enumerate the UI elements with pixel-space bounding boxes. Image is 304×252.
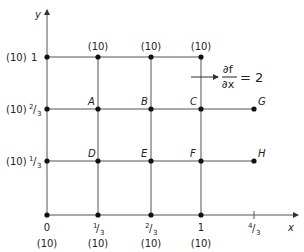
point-label-C: C bbox=[190, 96, 197, 107]
point-label-G: G bbox=[258, 96, 266, 107]
point-label-A: A bbox=[87, 96, 95, 107]
point-label-E: E bbox=[141, 148, 148, 159]
x-tick-13-den: 3 bbox=[100, 229, 104, 237]
bottom-boundary-label: (10) bbox=[191, 238, 212, 249]
y-tick-23-boundary: (10) bbox=[6, 104, 27, 115]
x-tick-1: 1 bbox=[198, 222, 204, 233]
x-axis-label: x bbox=[287, 222, 294, 233]
y-tick-23-den: 3 bbox=[37, 110, 41, 118]
point-label-F: F bbox=[190, 148, 196, 159]
derivative-numerator: ∂f bbox=[223, 63, 234, 76]
derivative-denominator: ∂x bbox=[222, 78, 235, 91]
bottom-boundary-label: (10) bbox=[37, 238, 58, 249]
y-tick-13-boundary: (10) bbox=[6, 156, 27, 167]
bottom-boundary-label: (10) bbox=[88, 238, 109, 249]
point-label-D: D bbox=[88, 148, 96, 159]
top-boundary-label: (10) bbox=[191, 41, 212, 52]
finite-difference-grid: y x (10) (10) (10) (10) 1 (10) 2 / 3 (10… bbox=[0, 0, 304, 252]
top-boundary-label: (10) bbox=[88, 41, 109, 52]
top-boundary-label: (10) bbox=[141, 41, 162, 52]
bottom-boundary-label: (10) bbox=[141, 238, 162, 249]
y-axis-label: y bbox=[34, 9, 42, 20]
derivative-value: = 2 bbox=[240, 70, 263, 85]
point-label-H: H bbox=[258, 148, 266, 159]
x-tick-0: 0 bbox=[44, 222, 50, 233]
x-tick-23-den: 3 bbox=[153, 229, 157, 237]
y-tick-1: 1 bbox=[31, 52, 37, 63]
y-tick-13-den: 3 bbox=[37, 162, 41, 170]
x-tick-43-den: 3 bbox=[256, 229, 260, 237]
y-tick-1-boundary: (10) bbox=[6, 52, 27, 63]
point-label-B: B bbox=[141, 96, 148, 107]
